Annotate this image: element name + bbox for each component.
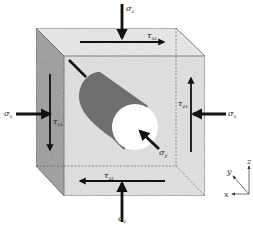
- sigma-x-left-label: σx: [4, 109, 12, 119]
- sigma-x-right-label: σx: [228, 109, 236, 119]
- sigma-z-bottom-label: σz: [118, 214, 126, 224]
- x-axis-label: x: [224, 190, 229, 199]
- y-axis-label: y: [226, 167, 232, 176]
- coordinate-axes: z y x: [224, 157, 252, 199]
- y-axis: [233, 176, 249, 194]
- z-axis-label: z: [246, 157, 252, 166]
- sigma-z-top-label: σz: [126, 4, 134, 14]
- stress-cube-diagram: σz σz σx σx σy τxz τxz τzx τzx z y: [0, 0, 253, 228]
